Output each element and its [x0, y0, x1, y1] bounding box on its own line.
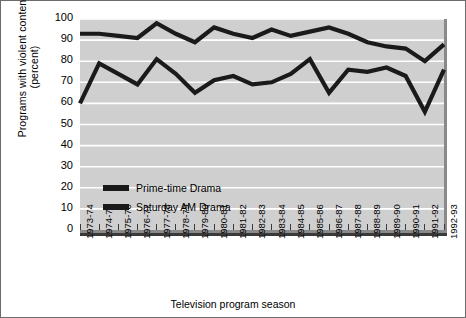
x-tick-mark	[80, 224, 81, 230]
y-tick-label: 30	[37, 159, 73, 171]
x-tick-mark	[424, 224, 425, 230]
x-tick-mark	[405, 224, 406, 230]
x-tick-mark	[214, 224, 215, 230]
legend-line-swatch-icon	[103, 204, 129, 210]
x-tick-label: 1991-92	[429, 204, 440, 239]
x-axis-title: Television program season	[1, 298, 465, 310]
x-tick-mark	[137, 224, 138, 230]
y-tick-label: 70	[37, 74, 73, 86]
y-tick-label: 100	[37, 11, 73, 23]
x-tick-mark	[175, 224, 176, 230]
y-tick-label: 50	[37, 117, 73, 129]
x-tick-label: 1987-88	[352, 204, 363, 239]
x-tick-mark	[252, 224, 253, 230]
x-tick-mark	[233, 224, 234, 230]
y-tick-label: 60	[37, 95, 73, 107]
x-tick-label: 1986-87	[333, 204, 344, 239]
figure-frame: Programs with violent content (percent) …	[0, 0, 466, 318]
x-tick-label: 1992-93	[448, 204, 459, 239]
data-lines	[80, 19, 444, 230]
x-tick-label: 1985-86	[314, 204, 325, 239]
legend-label: Saturday AM Drama	[136, 201, 231, 213]
y-axis-title-line1: Programs with violent content	[16, 0, 28, 152]
x-tick-label: 1983-84	[276, 204, 287, 239]
x-tick-mark	[194, 224, 195, 230]
y-tick-label: 10	[37, 201, 73, 213]
legend-item: Prime-time Drama	[103, 181, 221, 194]
x-tick-mark	[309, 224, 310, 230]
y-tick-label: 20	[37, 180, 73, 192]
x-tick-mark	[290, 224, 291, 230]
y-tick-label: 80	[37, 53, 73, 65]
x-tick-mark	[386, 224, 387, 230]
legend-line-swatch-icon	[103, 185, 129, 191]
x-tick-mark	[367, 224, 368, 230]
x-tick-mark	[329, 224, 330, 230]
x-tick-mark	[348, 224, 349, 230]
x-tick-mark	[444, 224, 445, 230]
x-tick-label: 1984-85	[295, 204, 306, 239]
y-tick-label: 40	[37, 138, 73, 150]
legend-label: Prime-time Drama	[136, 182, 221, 194]
y-tick-label: 90	[37, 32, 73, 44]
x-tick-label: 1990-91	[410, 204, 421, 239]
x-tick-mark	[99, 224, 100, 230]
x-tick-mark	[118, 224, 119, 230]
x-tick-label: 1988-89	[371, 204, 382, 239]
legend-item: Saturday AM Drama	[103, 200, 231, 213]
x-tick-label: 1982-83	[256, 204, 267, 239]
y-tick-label: 0	[37, 222, 73, 234]
x-tick-label: 1973-74	[84, 204, 95, 239]
x-tick-mark	[271, 224, 272, 230]
x-tick-mark	[156, 224, 157, 230]
x-tick-label: 1981-82	[237, 204, 248, 239]
x-tick-label: 1989-90	[391, 204, 402, 239]
